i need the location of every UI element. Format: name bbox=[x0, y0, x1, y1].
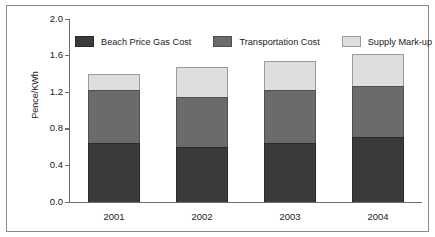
bar-segment bbox=[176, 97, 228, 147]
legend-swatch-icon bbox=[75, 36, 94, 47]
bar-stack-2004 bbox=[352, 54, 404, 202]
y-axis-tick-mark bbox=[65, 92, 70, 93]
bar-segment bbox=[88, 90, 140, 142]
bar-segment bbox=[352, 54, 404, 86]
bar-segment bbox=[176, 67, 228, 97]
x-axis-label: 2002 bbox=[176, 211, 228, 222]
bar-segment bbox=[88, 143, 140, 202]
legend-item: Transportation Cost bbox=[213, 36, 341, 47]
x-axis-label: 2003 bbox=[264, 211, 316, 222]
chart-screenshot: Pence/KWh 2.01.61.20.80.40.0 20012002200… bbox=[0, 0, 435, 237]
legend-label: Beach Price Gas Cost bbox=[101, 37, 191, 47]
y-axis-tick-label: 0.4 bbox=[50, 159, 63, 170]
bar-stack-2002 bbox=[176, 67, 228, 202]
y-axis-title: Pence/KWh bbox=[30, 50, 40, 140]
y-axis-tick-mark bbox=[65, 165, 70, 166]
legend-item: Supply Mark-up bbox=[342, 36, 432, 47]
bar-segment bbox=[264, 90, 316, 142]
legend-label: Supply Mark-up bbox=[368, 37, 432, 47]
bar-segment bbox=[88, 74, 140, 90]
y-axis-tick-label: 1.6 bbox=[50, 49, 63, 60]
chart-frame: Pence/KWh 2.01.61.20.80.40.0 20012002200… bbox=[6, 5, 429, 232]
y-axis-tick-mark bbox=[65, 202, 70, 203]
y-axis-tick-label: 0.8 bbox=[50, 122, 63, 133]
bar-segment bbox=[176, 147, 228, 202]
y-axis-tick-mark bbox=[65, 128, 70, 129]
x-axis-label: 2004 bbox=[352, 211, 404, 222]
y-axis-tick-label: 1.2 bbox=[50, 86, 63, 97]
y-axis-tick-label: 0.0 bbox=[50, 196, 63, 207]
legend-label: Transportation Cost bbox=[239, 37, 319, 47]
legend-swatch-icon bbox=[213, 36, 232, 47]
legend-item: Beach Price Gas Cost bbox=[75, 36, 213, 47]
legend-swatch-icon bbox=[342, 36, 361, 47]
x-axis-label: 2001 bbox=[88, 211, 140, 222]
y-axis-tick-label: 2.0 bbox=[50, 13, 63, 24]
y-axis-tick-mark bbox=[65, 55, 70, 56]
bar-segment bbox=[352, 86, 404, 137]
bar-stack-2001 bbox=[88, 74, 140, 202]
chart-legend: Beach Price Gas CostTransportation CostS… bbox=[75, 36, 432, 47]
bar-segment bbox=[352, 137, 404, 202]
y-axis-tick-mark bbox=[65, 19, 70, 20]
bar-stack-2003 bbox=[264, 61, 316, 202]
bar-segment bbox=[264, 61, 316, 90]
bar-segment bbox=[264, 143, 316, 202]
